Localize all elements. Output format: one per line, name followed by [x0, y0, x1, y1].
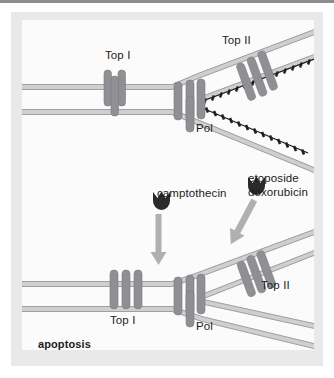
camptothecin-label: camptothecin — [157, 187, 227, 200]
top-i-label-lower: Top I — [110, 314, 135, 327]
doxorubicin-label-line2: doxorubicin — [248, 186, 308, 198]
etoposide-label-line1: etoposide — [248, 172, 299, 184]
apoptosis-label: apoptosis — [38, 338, 91, 350]
bottom-panel-group — [22, 177, 314, 349]
etoposide-down-arrow-icon — [223, 196, 261, 248]
top-i-label-upper: Top I — [105, 49, 130, 62]
pol-label-lower: Pol — [196, 320, 213, 333]
pol-label-upper: Pol — [196, 122, 213, 135]
camptothecin-down-arrow-icon — [151, 214, 167, 265]
figure-root: Top I Top II Pol camptothecin etoposide … — [0, 0, 334, 378]
parental-strand-lower — [22, 110, 314, 173]
treated-top-i-complex — [110, 270, 142, 309]
top-panel-group — [22, 30, 314, 173]
top-ii-label-lower: Top II — [261, 279, 290, 292]
top-divider-rule — [0, 0, 334, 3]
figure-panel: Top I Top II Pol camptothecin etoposide … — [22, 20, 314, 350]
etoposide-doxorubicin-label: etoposide doxorubicin — [248, 172, 314, 199]
top-ii-label-upper: Top II — [222, 34, 251, 47]
